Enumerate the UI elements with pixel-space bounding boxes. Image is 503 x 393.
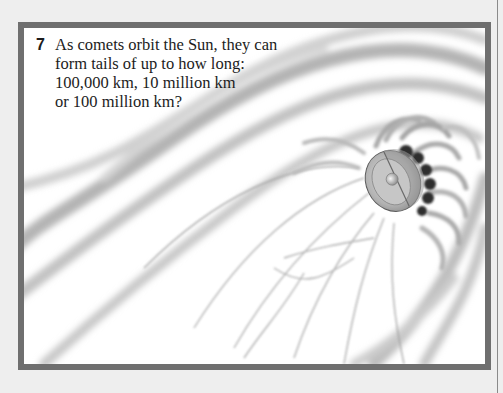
question-line-1: As comets orbit the Sun, they can xyxy=(36,35,276,54)
question-line-2: form tails of up to how long: xyxy=(36,54,276,73)
quiz-card: 7 As comets orbit the Sun, they can form… xyxy=(18,22,491,370)
page-margin-rule xyxy=(497,0,498,393)
question-line-4: or 100 million km? xyxy=(36,92,276,111)
quiz-question: 7 As comets orbit the Sun, they can form… xyxy=(36,35,276,111)
question-line-3: 100,000 km, 10 million km xyxy=(36,73,276,92)
question-number: 7 xyxy=(36,35,45,54)
